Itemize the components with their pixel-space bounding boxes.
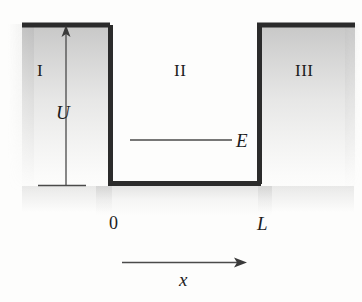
region-2-label: II — [174, 62, 186, 79]
potential-height-label: U — [56, 103, 70, 122]
potential-well-figure: I II III U E 0 L x — [0, 0, 362, 302]
origin-label: 0 — [109, 214, 118, 232]
well-width-label: L — [257, 214, 268, 233]
region-1-label: I — [37, 62, 43, 79]
annotation-layer — [0, 0, 362, 302]
x-axis-label: x — [179, 270, 187, 289]
energy-level-label: E — [236, 131, 248, 150]
region-3-label: III — [295, 62, 313, 79]
